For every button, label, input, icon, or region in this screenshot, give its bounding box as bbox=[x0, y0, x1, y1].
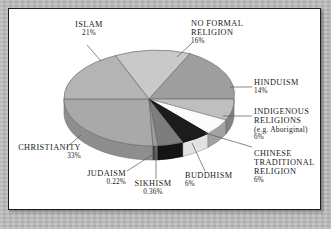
slice-christianity bbox=[64, 99, 153, 146]
label-hinduism-pct: 14% bbox=[254, 88, 299, 96]
label-no-formal-religion-pct: 16% bbox=[191, 38, 243, 46]
label-chinese-traditional-religion: CHINESE TRADITIONAL RELIGION 6% bbox=[254, 150, 315, 185]
label-indigenous-pct: 6% bbox=[254, 134, 309, 142]
chart-frame: ISLAM 21% NO FORMAL RELIGION 16% HINDUIS… bbox=[8, 8, 321, 210]
label-islam: ISLAM 21% bbox=[61, 21, 117, 38]
label-judaism: JUDAISM 0.22% bbox=[64, 170, 126, 187]
pie-top-faces bbox=[64, 50, 234, 146]
screenshot-root: ISLAM 21% NO FORMAL RELIGION 16% HINDUIS… bbox=[0, 0, 331, 229]
label-no-formal-religion: NO FORMAL RELIGION 16% bbox=[191, 20, 243, 46]
label-sikhism-pct: 0.36% bbox=[123, 189, 183, 197]
leader-islam bbox=[87, 45, 101, 61]
label-chinese-pct: 6% bbox=[254, 177, 315, 185]
label-sikhism: SIKHISM 0.36% bbox=[123, 180, 183, 197]
wall-sikhism bbox=[155, 146, 158, 160]
wall-judaism bbox=[153, 146, 155, 160]
label-judaism-pct: 0.22% bbox=[64, 179, 126, 187]
label-buddhism-pct: 6% bbox=[185, 181, 232, 189]
label-christianity-pct: 33% bbox=[11, 153, 81, 161]
label-christianity: CHRISTIANITY 33% bbox=[11, 144, 81, 161]
label-islam-pct: 21% bbox=[61, 30, 117, 38]
label-buddhism: BUDDHISM 6% bbox=[185, 172, 232, 189]
label-hinduism: HINDUISM 14% bbox=[254, 79, 299, 96]
label-indigenous-religions: INDIGENOUS RELIGIONS (e.g. Aboriginal) 6… bbox=[254, 108, 309, 142]
